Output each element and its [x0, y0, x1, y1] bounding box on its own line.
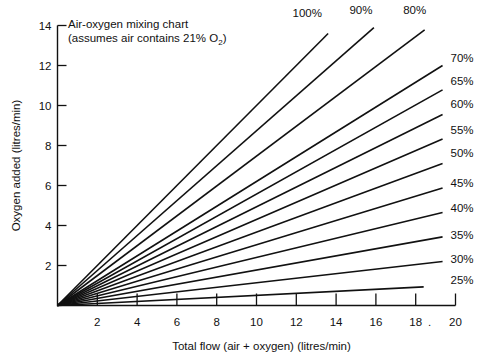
chart-plot-area: 24681012142468101214161820. 100%90%80%70…: [0, 0, 482, 357]
fio2-label-80: 80%: [403, 4, 426, 16]
x-tick-label: 18: [409, 316, 422, 328]
fio2-label-100: 100%: [293, 7, 322, 19]
fio2-label-25: 25%: [451, 274, 474, 286]
axes-group: [58, 26, 456, 306]
x-tick-label: 4: [134, 316, 141, 328]
fio2-line-40: [58, 213, 443, 306]
fio2-label-35: 35%: [451, 229, 474, 241]
x-tick-label: 6: [174, 316, 180, 328]
fio2-line-80: [58, 30, 425, 306]
x-tick-label: 10: [250, 316, 263, 328]
y-tick-label: 6: [45, 180, 51, 192]
fio2-line-65: [58, 90, 443, 306]
y-axis-title: Oxygen added (litres/min): [10, 99, 22, 231]
fio2-label-45: 45%: [451, 177, 474, 189]
x-axis-stray-mark: .: [428, 316, 431, 328]
chart-title: Air-oxygen mixing chart: [68, 18, 189, 30]
axis-lines: [58, 26, 456, 306]
fio2-line-55: [58, 139, 443, 306]
fio2-line-90: [58, 28, 374, 306]
fio2-label-40: 40%: [451, 202, 474, 214]
x-tick-label: 14: [330, 316, 343, 328]
chart-subtitle: (assumes air contains 21% O2): [68, 32, 227, 47]
fio2-label-65: 65%: [451, 75, 474, 87]
y-tick-label: 4: [45, 220, 52, 232]
y-tick-label: 14: [39, 20, 52, 32]
ticks-group: [58, 26, 456, 306]
x-tick-label: 16: [370, 316, 383, 328]
fan-lines-group: [58, 28, 443, 306]
y-tick-label: 12: [39, 60, 52, 72]
fio2-label-70: 70%: [451, 52, 474, 64]
fio2-line-60: [58, 115, 443, 306]
y-tick-label: 2: [45, 260, 51, 272]
fio2-label-50: 50%: [451, 147, 474, 159]
x-tick-label: 12: [290, 316, 303, 328]
fio2-label-30: 30%: [451, 253, 474, 265]
x-tick-label: 8: [213, 316, 219, 328]
fio2-label-90: 90%: [349, 4, 372, 16]
x-tick-label: 20: [449, 316, 462, 328]
x-tick-label: 2: [94, 316, 100, 328]
y-tick-label: 10: [39, 100, 52, 112]
fio2-label-60: 60%: [451, 98, 474, 110]
fio2-label-55: 55%: [451, 124, 474, 136]
y-tick-label: 8: [45, 140, 51, 152]
air-oxygen-mixing-chart: 24681012142468101214161820. 100%90%80%70…: [0, 0, 482, 357]
x-axis-title: Total flow (air + oxygen) (litres/min): [172, 340, 351, 352]
